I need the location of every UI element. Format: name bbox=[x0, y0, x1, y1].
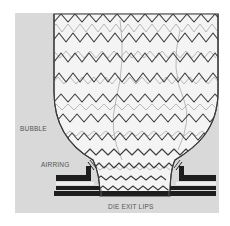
blown-film-diagram bbox=[0, 0, 230, 226]
bubble-label: BUBBLE bbox=[20, 125, 47, 132]
airring-right bbox=[170, 160, 216, 190]
die-exit-lips-label: DIE EXIT LIPS bbox=[108, 203, 153, 210]
airring-label: AIRRING bbox=[41, 161, 70, 168]
